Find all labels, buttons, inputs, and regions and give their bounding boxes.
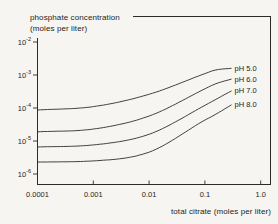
- x-tick-label: 0.01: [142, 190, 157, 199]
- figure: phosphate concentration (moles per liter…: [0, 0, 278, 224]
- curve-ph-5-0: [38, 68, 232, 110]
- x-axis-title: total citrate (moles per liter): [171, 207, 271, 216]
- curve-ph-7-0: [38, 91, 232, 147]
- curve-label-ph-5-0: pH 5.0: [235, 64, 257, 73]
- y-tick-label: 10-6: [18, 168, 31, 179]
- x-tick-label: 0.0001: [26, 190, 49, 199]
- curve-labels: pH 5.0pH 6.0pH 7.0pH 8.0: [235, 64, 257, 110]
- y-axis-title-line2: (moles per liter): [30, 24, 88, 33]
- x-tick-label: 0.1: [200, 190, 210, 199]
- x-axis-ticks: 0.00010.0010.010.11.0: [26, 181, 266, 200]
- y-tick-label: 10-3: [18, 69, 31, 80]
- x-tick-label: 0.001: [84, 190, 103, 199]
- x-tick-label: 1.0: [255, 190, 265, 199]
- curves: [38, 68, 232, 162]
- y-tick-label: 10-5: [18, 135, 31, 146]
- y-axis-title-line1: phosphate concentration: [30, 13, 120, 22]
- curve-ph-6-0: [38, 79, 232, 132]
- curve-label-ph-8-0: pH 8.0: [235, 100, 257, 109]
- chart-canvas: phosphate concentration (moles per liter…: [0, 0, 278, 224]
- curve-label-ph-6-0: pH 6.0: [235, 75, 257, 84]
- curve-ph-8-0: [38, 105, 232, 162]
- y-tick-label: 10-4: [18, 102, 31, 113]
- y-tick-label: 10-2: [18, 36, 31, 47]
- curve-label-ph-7-0: pH 7.0: [235, 86, 257, 95]
- y-axis-ticks: 10-210-310-410-510-6: [18, 36, 38, 179]
